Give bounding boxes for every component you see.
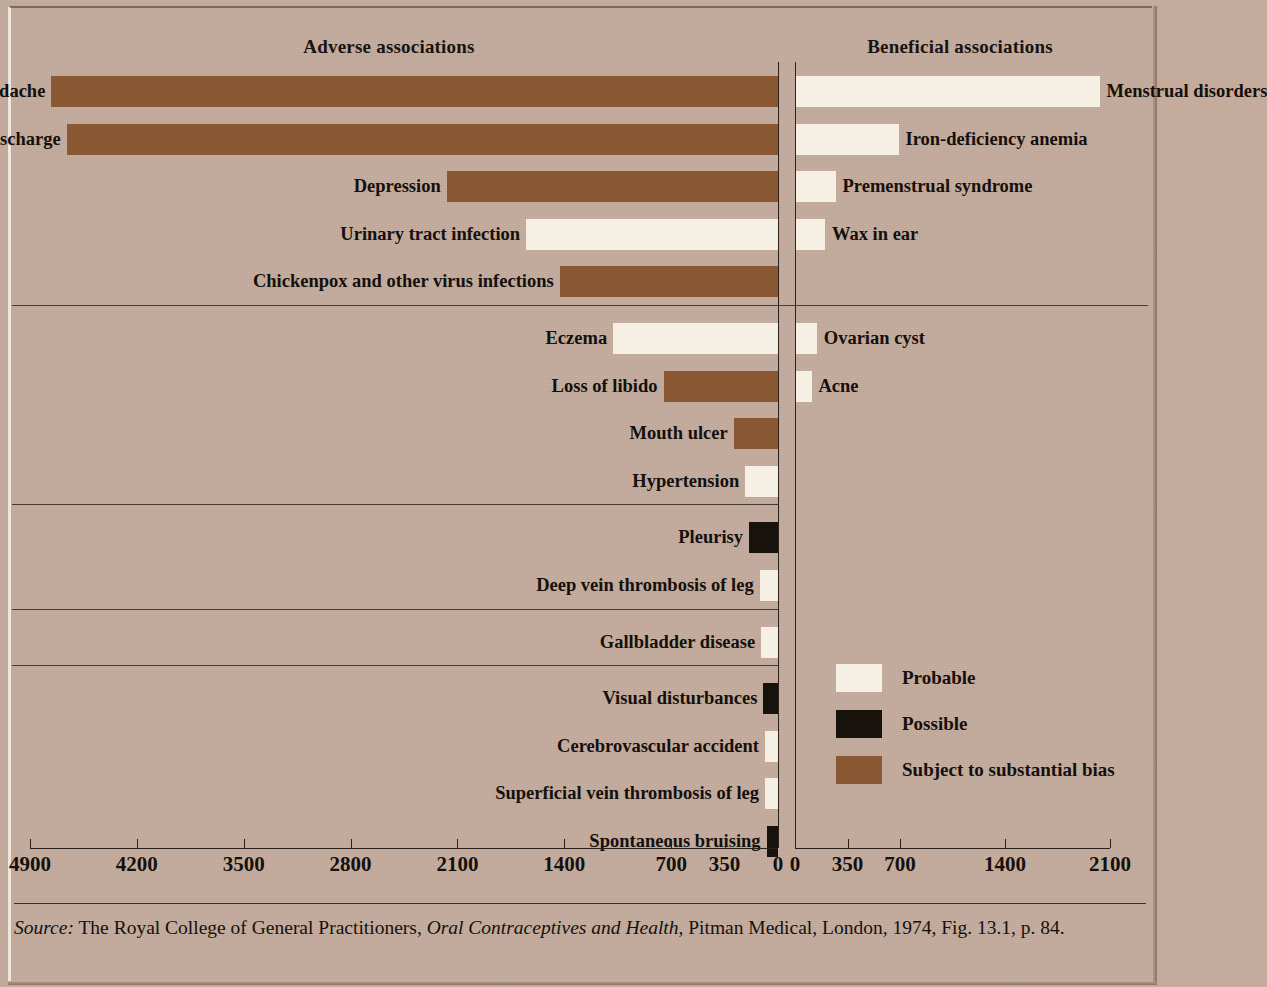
row-label-beneficial: Ovarian cyst — [824, 323, 925, 354]
left-axis-tick-label: 0 — [773, 852, 784, 877]
source-text-after: , Pitman Medical, London, 1974, Fig. 13.… — [678, 917, 1064, 938]
bar-adverse — [664, 371, 778, 402]
row-label-adverse: Deep vein thrombosis of leg — [536, 570, 754, 601]
bar-adverse — [760, 570, 778, 601]
row-label-adverse: Pleurisy — [678, 522, 743, 553]
chart-area: Adverse associations Beneficial associat… — [0, 0, 1160, 880]
row-label-adverse: Mouth ulcer — [630, 418, 728, 449]
legend-swatch-bias-icon — [836, 756, 882, 784]
row-label-beneficial: Acne — [819, 371, 859, 402]
left-axis-tick-label: 1400 — [543, 852, 585, 877]
bar-adverse — [447, 171, 778, 202]
left-axis-tick-label: 2800 — [330, 852, 372, 877]
right-axis-tick — [848, 839, 849, 848]
bar-adverse — [763, 683, 778, 714]
row-label-adverse: Depression — [354, 171, 441, 202]
row-label-beneficial: Premenstrual syndrome — [843, 171, 1033, 202]
left-panel-zero-rule — [778, 62, 779, 848]
group-separator — [12, 305, 1148, 306]
beneficial-column-title: Beneficial associations — [795, 36, 1125, 58]
source-divider — [14, 903, 1146, 904]
row-label-beneficial: Menstrual disorders — [1107, 76, 1267, 107]
left-axis-tick — [778, 839, 779, 848]
left-axis-tick — [671, 839, 672, 848]
right-axis-tick-label: 2100 — [1089, 852, 1131, 877]
legend-label-possible: Possible — [902, 706, 967, 742]
legend-label-probable: Probable — [902, 660, 976, 696]
bar-beneficial — [795, 124, 899, 155]
row-label-adverse: Superficial vein thrombosis of leg — [495, 778, 759, 809]
left-axis-tick — [244, 839, 245, 848]
right-axis-line — [795, 848, 1110, 849]
bar-beneficial — [795, 219, 825, 250]
right-axis-tick — [1005, 839, 1006, 848]
row-label-adverse: Visual disturbances — [602, 683, 757, 714]
bar-adverse — [67, 124, 778, 155]
bar-adverse — [613, 323, 778, 354]
bar-adverse — [761, 627, 778, 658]
source-prefix: Source: — [14, 917, 74, 938]
bar-adverse — [51, 76, 778, 107]
legend-label-bias: Subject to substantial bias — [902, 752, 1115, 788]
row-label-adverse: Cerebrovascular accident — [557, 731, 759, 762]
row-label-adverse: Eczema — [546, 323, 608, 354]
source-work-title: Oral Contraceptives and Health — [427, 917, 679, 938]
row-label-adverse: Gallbladder disease — [600, 627, 755, 658]
right-axis-tick — [1110, 839, 1111, 848]
right-axis-tick-label: 700 — [884, 852, 916, 877]
right-axis-tick — [795, 839, 796, 848]
row-label-beneficial: Wax in ear — [832, 219, 918, 250]
left-axis-tick-label: 4200 — [116, 852, 158, 877]
left-axis-tick — [30, 839, 31, 848]
left-axis-tick-label: 700 — [655, 852, 687, 877]
row-label-beneficial: Iron-deficiency anemia — [906, 124, 1088, 155]
left-axis-tick — [137, 839, 138, 848]
adverse-column-title: Adverse associations — [0, 36, 778, 58]
legend-swatch-possible-icon — [836, 710, 882, 738]
bar-beneficial — [795, 76, 1100, 107]
left-axis-tick — [351, 839, 352, 848]
bar-adverse — [734, 418, 778, 449]
left-axis-line — [30, 848, 778, 849]
left-axis-tick-label: 4900 — [9, 852, 51, 877]
right-axis-tick-label: 0 — [790, 852, 801, 877]
row-label-adverse: Chickenpox and other virus infections — [253, 266, 554, 297]
left-axis-tick-label: 2100 — [436, 852, 478, 877]
right-axis-tick-label: 350 — [832, 852, 864, 877]
row-label-adverse: Hypertension — [632, 466, 739, 497]
group-separator — [12, 665, 778, 666]
left-axis-tick-label: 350 — [709, 852, 741, 877]
legend-swatch-probable-icon — [836, 664, 882, 692]
bar-adverse — [749, 522, 778, 553]
source-note: Source: The Royal College of General Pra… — [14, 915, 1140, 941]
right-axis-tick-label: 1400 — [984, 852, 1026, 877]
bar-beneficial — [795, 323, 817, 354]
group-separator — [12, 609, 778, 610]
row-label-adverse: Urinary tract infection — [340, 219, 520, 250]
row-label-adverse: Migraine and headache — [0, 76, 45, 107]
bar-adverse — [560, 266, 778, 297]
row-label-adverse: Vaginal discharge — [0, 124, 61, 155]
row-label-adverse: Loss of libido — [552, 371, 658, 402]
bar-beneficial — [795, 171, 836, 202]
group-separator — [12, 504, 778, 505]
right-panel-zero-rule — [795, 62, 796, 848]
left-axis-tick-label: 3500 — [223, 852, 265, 877]
figure-frame-bottom-edge — [8, 982, 1157, 985]
bar-adverse — [765, 778, 778, 809]
bar-adverse — [745, 466, 778, 497]
right-axis-tick — [900, 839, 901, 848]
bar-adverse — [765, 731, 778, 762]
left-axis-tick — [725, 839, 726, 848]
left-axis-tick — [457, 839, 458, 848]
bar-beneficial — [795, 371, 812, 402]
left-axis-tick — [564, 839, 565, 848]
bar-adverse — [526, 219, 778, 250]
source-text-before: The Royal College of General Practitione… — [74, 917, 427, 938]
